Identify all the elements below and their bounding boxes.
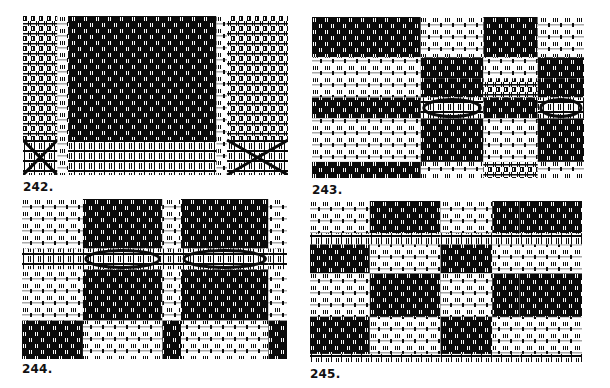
weave-block-dark: [312, 98, 421, 119]
weave-block-band: [370, 233, 441, 244]
weave-block-dark: [492, 201, 519, 233]
weave-block-dark: [312, 17, 421, 57]
weave-block-light: [370, 244, 441, 273]
weave-block-band: [370, 354, 441, 362]
figure-label-243: 243.: [312, 183, 342, 197]
weave-block-light: [538, 162, 584, 178]
weave-block-light: [22, 199, 83, 249]
weave-block-dark: [162, 321, 181, 359]
weave-block-mixed: [483, 78, 537, 97]
figure-label-245: 245.: [310, 367, 340, 381]
weave-block-mixed: [483, 162, 537, 178]
weave-block-light: [162, 199, 181, 249]
weave-block-band: [268, 249, 287, 270]
weave-panel-244: [22, 199, 287, 359]
weave-block-light: [483, 118, 537, 161]
weave-block-band: [68, 140, 216, 175]
weave-block-light: [57, 140, 68, 175]
weave-block-light: [162, 269, 181, 320]
weave-block-light: [57, 16, 68, 140]
figure-label-244: 244.: [22, 362, 52, 376]
weave-block-band: [519, 233, 582, 244]
weave-block-light: [538, 17, 584, 57]
weave-block-dark: [519, 273, 582, 316]
weave-block-band: [492, 233, 519, 244]
weave-block-light: [216, 140, 227, 175]
weave-block-band: [22, 249, 83, 270]
weave-block-light: [310, 273, 370, 316]
weave-block-light: [483, 57, 537, 78]
weave-block-band: [162, 249, 181, 270]
weave-block-light: [492, 317, 519, 354]
weave-block-light: [421, 17, 484, 57]
weave-block-dark: [370, 201, 441, 233]
weave-block-dark: [83, 199, 163, 249]
weave-block-dark: [421, 57, 484, 78]
weave-block-dark: [268, 321, 287, 359]
weave-block-dark: [492, 273, 519, 316]
weave-block-dark: [310, 244, 370, 273]
weave-block-band: [441, 354, 493, 362]
weave-block-light: [312, 78, 421, 97]
weave-block-dark: [421, 118, 484, 161]
weave-block-band: [310, 233, 370, 244]
weave-block-light: [370, 317, 441, 354]
weave-block-dark: [312, 162, 421, 178]
weave-block-dark: [483, 98, 537, 119]
weave-block-band: [310, 354, 370, 362]
weave-block-light: [181, 321, 268, 359]
weave-block-dark: [441, 244, 493, 273]
weave-block-dark: [68, 16, 216, 140]
weave-block-mixed: [227, 16, 288, 140]
weave-block-band: [519, 354, 582, 362]
weave-block-light: [519, 244, 582, 273]
weave-block-light: [492, 244, 519, 273]
weave-block-band: [441, 233, 493, 244]
weave-block-light: [216, 16, 227, 140]
weave-panel-242: [23, 16, 288, 175]
weave-block-dark: [181, 269, 268, 320]
weave-block-dark: [538, 118, 584, 161]
weave-panel-243: [312, 17, 584, 178]
weave-block-band: [492, 354, 519, 362]
weave-block-dark: [310, 317, 370, 354]
weave-block-mixed: [23, 16, 57, 140]
weave-block-light: [519, 317, 582, 354]
weave-block-light: [312, 57, 421, 78]
weave-block-light: [268, 199, 287, 249]
weave-block-dark: [538, 78, 584, 97]
weave-panel-245: [310, 201, 582, 362]
weave-block-dark: [483, 17, 537, 57]
weave-block-dark: [441, 317, 493, 354]
weave-block-dark: [181, 199, 268, 249]
weave-block-light: [312, 118, 421, 161]
weave-block-light: [441, 273, 493, 316]
weave-block-dark: [538, 57, 584, 78]
weave-block-dark: [370, 273, 441, 316]
weave-block-light: [310, 201, 370, 233]
weave-block-dark: [22, 321, 83, 359]
figure-label-242: 242.: [23, 180, 53, 194]
weave-block-light: [421, 162, 484, 178]
weave-block-dark: [83, 269, 163, 320]
weave-block-light: [22, 269, 83, 320]
weave-block-light: [83, 321, 163, 359]
weave-block-dark: [519, 201, 582, 233]
weave-block-light: [268, 269, 287, 320]
weave-block-light: [441, 201, 493, 233]
weave-block-dark: [421, 78, 484, 97]
